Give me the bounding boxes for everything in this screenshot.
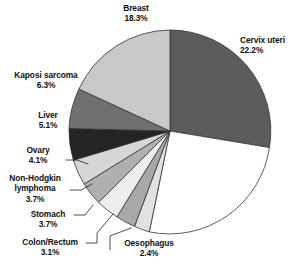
label-ovary-percent: 4.1% <box>12 155 64 165</box>
pie-chart-figure: Breast 18.3% Cervix uteri 22.2% Kaposi s… <box>0 0 301 270</box>
label-kaposi-sarcoma-percent: 6.3% <box>4 80 88 90</box>
label-cervix-uteri-name: Cervix uteri <box>240 35 301 45</box>
label-stomach-percent: 3.7% <box>22 219 74 229</box>
label-breast-name: Breast <box>88 3 184 13</box>
label-stomach-name: Stomach <box>22 209 74 219</box>
label-oesophagus-name: Oesophagus <box>113 238 185 248</box>
label-colon-rectum: Colon/Rectum 3.1% <box>14 237 86 258</box>
label-liver-percent: 5.1% <box>22 120 74 130</box>
label-nhl-percent: 3.7% <box>0 194 70 204</box>
pie-slices <box>69 30 271 234</box>
label-breast: Breast 18.3% <box>88 3 184 24</box>
pie-slice-other-unlabeled[interactable] <box>149 131 269 234</box>
label-breast-percent: 18.3% <box>88 13 184 23</box>
label-colon-rectum-name: Colon/Rectum <box>14 237 86 247</box>
label-oesophagus: Oesophagus 2.4% <box>113 238 185 259</box>
leader-line-colon <box>86 214 113 243</box>
label-kaposi-sarcoma-name: Kaposi sarcoma <box>4 70 88 80</box>
label-stomach: Stomach 3.7% <box>22 209 74 230</box>
label-liver-name: Liver <box>22 110 74 120</box>
label-kaposi-sarcoma: Kaposi sarcoma 6.3% <box>4 70 88 91</box>
label-ovary-name: Ovary <box>12 145 64 155</box>
leader-line-stomach <box>74 205 93 215</box>
label-nhl-name-line2: lymphoma <box>0 183 70 193</box>
label-liver: Liver 5.1% <box>22 110 74 131</box>
label-colon-rectum-percent: 3.1% <box>14 247 86 257</box>
label-ovary: Ovary 4.1% <box>12 145 64 166</box>
label-oesophagus-percent: 2.4% <box>113 248 185 258</box>
label-cervix-uteri: Cervix uteri 22.2% <box>240 35 301 56</box>
label-cervix-uteri-percent: 22.2% <box>240 45 301 55</box>
label-non-hodgkin-lymphoma: Non-Hodgkin lymphoma 3.7% <box>0 173 70 204</box>
label-nhl-name-line1: Non-Hodgkin <box>0 173 70 183</box>
